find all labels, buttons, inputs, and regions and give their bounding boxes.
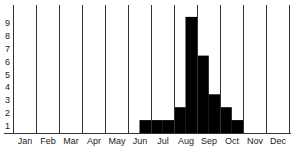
bars bbox=[140, 17, 244, 133]
bar-aug-late bbox=[186, 17, 198, 133]
x-label-jun: Jun bbox=[133, 136, 148, 146]
y-axis-ticks: 123456789 bbox=[5, 18, 10, 131]
bar-aug-early bbox=[174, 107, 186, 133]
x-label-may: May bbox=[108, 136, 126, 146]
y-tick-label: 7 bbox=[5, 44, 10, 54]
x-label-nov: Nov bbox=[247, 136, 264, 146]
x-label-dec: Dec bbox=[270, 136, 287, 146]
month-separator-lines bbox=[14, 5, 290, 133]
x-label-jul: Jul bbox=[157, 136, 169, 146]
x-label-aug: Aug bbox=[178, 136, 194, 146]
bar-oct-late bbox=[232, 120, 244, 133]
bar-sep-early bbox=[197, 56, 209, 133]
x-label-sep: Sep bbox=[201, 136, 217, 146]
x-label-oct: Oct bbox=[225, 136, 240, 146]
y-tick-label: 1 bbox=[5, 121, 10, 131]
x-label-jan: Jan bbox=[18, 136, 33, 146]
bar-jul-late bbox=[163, 120, 175, 133]
bar-chart: 123456789 JanFebMarAprMayJunJulAugSepOct… bbox=[0, 0, 291, 148]
x-label-feb: Feb bbox=[40, 136, 56, 146]
x-axis-labels: JanFebMarAprMayJunJulAugSepOctNovDec bbox=[18, 136, 287, 146]
bar-sep-late bbox=[209, 94, 221, 133]
y-tick-label: 6 bbox=[5, 57, 10, 67]
x-label-mar: Mar bbox=[63, 136, 79, 146]
y-tick-label: 9 bbox=[5, 18, 10, 28]
y-tick-label: 3 bbox=[5, 95, 10, 105]
y-tick-label: 5 bbox=[5, 70, 10, 80]
bar-jun-late bbox=[140, 120, 152, 133]
y-tick-label: 8 bbox=[5, 31, 10, 41]
bar-jul-early bbox=[151, 120, 163, 133]
bar-oct-early bbox=[220, 107, 232, 133]
y-tick-label: 2 bbox=[5, 108, 10, 118]
x-label-apr: Apr bbox=[87, 136, 101, 146]
y-tick-label: 4 bbox=[5, 82, 10, 92]
